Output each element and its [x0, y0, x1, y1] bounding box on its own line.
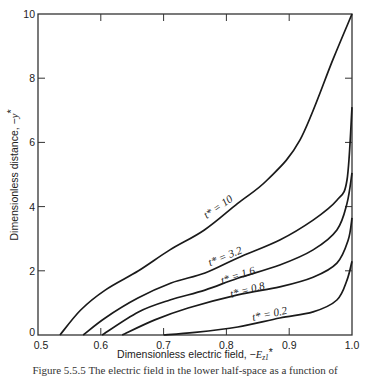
y-tick-label: 2: [29, 265, 35, 277]
x-tick-label: 1.0: [345, 339, 360, 351]
y-tick-label: 10: [23, 8, 35, 20]
axis-ticks: [38, 14, 352, 335]
x-tick-label: 0.6: [93, 339, 108, 351]
y-tick-label: 8: [29, 72, 35, 84]
x-tick-label: 0.9: [282, 339, 297, 351]
curve-label: t* = 10: [201, 192, 235, 221]
y-axis-label: Dimensionless distance, −y*: [5, 109, 20, 240]
figure-caption: Figure 5.5.5 The electric field in the l…: [0, 364, 370, 376]
x-axis-label: Dimensionless electric field, −Ez1*: [117, 346, 273, 362]
curve-labels: t* = 10t* = 3.2t* = 1.6t* = 0.8t* = 0.2: [201, 192, 288, 323]
y-tick-label: 4: [29, 201, 35, 213]
y-tick-label: 6: [29, 136, 35, 148]
y-tick-label: 0: [29, 326, 35, 338]
x-tick-label: 0.5: [34, 339, 49, 351]
plot-frame: [38, 14, 352, 335]
tick-labels: 0.50.60.70.80.91.00246810: [23, 8, 359, 351]
curve-10: [60, 14, 352, 335]
curves: [60, 14, 352, 335]
